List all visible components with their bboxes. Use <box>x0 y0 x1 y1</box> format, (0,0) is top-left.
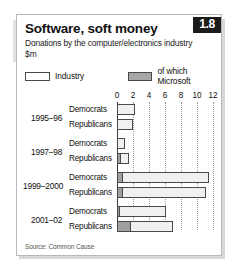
bar-industry <box>117 187 206 198</box>
bar-microsoft <box>117 187 123 198</box>
group-year-label: 2001–02 <box>31 215 62 225</box>
legend-swatch-microsoft-icon <box>128 72 152 81</box>
bar-industry <box>117 104 135 115</box>
bar-microsoft <box>117 221 131 232</box>
x-axis-tick-label: 2 <box>131 91 136 100</box>
x-axis-tick-label: 10 <box>192 91 201 100</box>
group-year-label: 1995–96 <box>31 113 62 123</box>
legend-item-industry: Industry <box>25 71 84 81</box>
chart-plot-area: 0246810121995–96DemocratsRepublicans1997… <box>17 91 221 241</box>
bar-industry <box>117 172 209 183</box>
page-title: Software, soft money <box>25 21 213 36</box>
bar-row-label: Republicans <box>69 188 112 197</box>
bar-row-label: Republicans <box>69 120 112 129</box>
x-axis-tick-label: 12 <box>208 91 217 100</box>
bar-microsoft <box>117 153 121 164</box>
chart-legend: Industry of which Microsoft <box>25 66 221 86</box>
x-axis-tick-label: 0 <box>115 91 120 100</box>
group-year-label: 1999–2000 <box>23 181 63 191</box>
chart-subtitle: Donations by the computer/electronics in… <box>25 38 213 48</box>
group-year-label: 1997–98 <box>31 147 62 157</box>
x-axis-tick-label: 4 <box>147 91 152 100</box>
legend-label-industry: Industry <box>55 71 84 81</box>
chart-header: 1.8 Software, soft money Donations by th… <box>17 15 221 59</box>
legend-label-microsoft: of which Microsoft <box>157 66 221 86</box>
chart-unit-label: $m <box>25 49 213 59</box>
bar-row-label: Republicans <box>69 154 112 163</box>
panel-shadow-right <box>222 19 225 258</box>
x-axis-tick-label: 8 <box>179 91 184 100</box>
bar-microsoft <box>117 206 120 217</box>
figure-number-badge: 1.8 <box>193 17 221 33</box>
bar-industry <box>117 206 166 217</box>
chart-source: Source: Common Cause <box>25 243 94 250</box>
chart-panel: 1.8 Software, soft money Donations by th… <box>16 14 222 256</box>
bar-microsoft <box>117 172 123 183</box>
panel-shadow-bottom <box>19 256 225 259</box>
bar-row-label: Democrats <box>69 173 107 182</box>
bars-container: 1995–96DemocratsRepublicans1997–98Democr… <box>17 102 221 230</box>
bar-industry <box>117 119 133 130</box>
bar-industry <box>117 138 125 149</box>
x-axis-tick-label: 6 <box>163 91 168 100</box>
legend-swatch-industry-icon <box>25 72 50 81</box>
bar-row-label: Democrats <box>69 207 107 216</box>
bar-row-label: Democrats <box>69 105 107 114</box>
bar-row-label: Republicans <box>69 222 112 231</box>
bar-row-label: Democrats <box>69 139 107 148</box>
legend-item-microsoft: of which Microsoft <box>128 66 221 86</box>
